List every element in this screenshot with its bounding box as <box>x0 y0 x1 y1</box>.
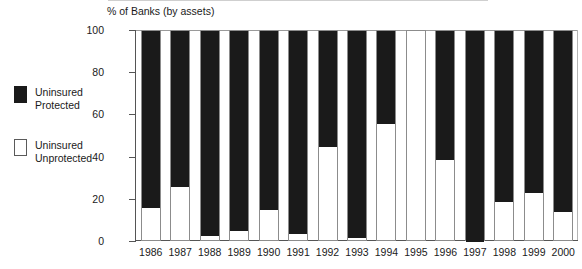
bar-segment-uninsured-protected <box>260 31 278 210</box>
x-axis-tick-label: 1991 <box>286 246 309 258</box>
stacked-bar[interactable] <box>376 30 396 241</box>
x-axis-tick-label: 2000 <box>552 246 575 258</box>
y-axis-tick <box>129 157 136 158</box>
y-axis-tick <box>129 72 136 73</box>
bar-segment-uninsured-protected <box>289 31 307 234</box>
y-axis-title: % of Banks (by assets) <box>107 5 214 17</box>
x-axis-tick-label: 1999 <box>522 246 545 258</box>
bar-slot <box>460 30 489 241</box>
bar-slot <box>224 30 253 241</box>
bar-slot <box>490 30 519 241</box>
x-axis-tick-label: 1987 <box>169 246 192 258</box>
bar-slot <box>549 30 578 241</box>
x-axis-tick-label: 1995 <box>404 246 427 258</box>
y-axis-tick-label: 60 <box>92 108 104 120</box>
bar-slot <box>136 30 165 241</box>
bar-slot <box>283 30 312 241</box>
y-axis-tick <box>129 199 136 200</box>
bar-segment-uninsured-protected <box>230 31 248 231</box>
x-axis-tick-label: 1992 <box>316 246 339 258</box>
y-axis-tick-label: 80 <box>92 66 104 78</box>
legend-label-uninsured-unprotected: Uninsured Unprotected <box>35 139 92 164</box>
chart-page: Uninsured Protected Uninsured Unprotecte… <box>0 0 582 269</box>
y-axis-tick-label: 20 <box>92 193 104 205</box>
bar-slot <box>372 30 401 241</box>
x-axis-tick-label: 1988 <box>198 246 221 258</box>
bar-segment-uninsured-protected <box>495 31 513 202</box>
stacked-bar[interactable] <box>229 30 249 241</box>
bar-group <box>136 30 578 241</box>
x-axis-tick-label: 1994 <box>375 246 398 258</box>
bar-segment-uninsured-protected <box>348 31 366 238</box>
x-axis-tick-label: 1993 <box>345 246 368 258</box>
bar-segment-uninsured-protected <box>554 31 572 212</box>
stacked-bar[interactable] <box>259 30 279 241</box>
bar-segment-uninsured-protected <box>466 31 484 242</box>
x-axis-tick-label: 1997 <box>463 246 486 258</box>
stacked-bar[interactable] <box>288 30 308 241</box>
legend-label-uninsured-protected: Uninsured Protected <box>35 86 83 111</box>
top-divider-rule <box>108 0 488 1</box>
legend-swatch-hollow-icon <box>14 139 27 156</box>
stacked-bar[interactable] <box>141 30 161 241</box>
x-axis-tick-label: 1986 <box>139 246 162 258</box>
stacked-bar[interactable] <box>524 30 544 241</box>
bar-slot <box>401 30 430 241</box>
plot-area: 020406080100 <box>108 30 578 241</box>
y-axis-tick-label: 100 <box>86 24 104 36</box>
bar-segment-uninsured-protected <box>436 31 454 160</box>
legend-swatch-filled-icon <box>14 86 27 103</box>
bar-segment-uninsured-protected <box>525 31 543 193</box>
y-axis-tick <box>129 114 136 115</box>
stacked-bar[interactable] <box>318 30 338 241</box>
bar-slot <box>519 30 548 241</box>
stacked-bar[interactable] <box>494 30 514 241</box>
bar-segment-uninsured-protected <box>377 31 395 124</box>
y-axis-tick <box>129 241 136 242</box>
x-axis-tick-label: 1989 <box>227 246 250 258</box>
bar-segment-uninsured-protected <box>142 31 160 208</box>
bar-segment-uninsured-protected <box>171 31 189 187</box>
bar-slot <box>254 30 283 241</box>
x-axis-labels: 1986198719881989199019911992199319941995… <box>108 246 578 262</box>
stacked-bar[interactable] <box>435 30 455 241</box>
bar-segment-uninsured-protected <box>319 31 337 147</box>
y-axis-tick-label: 40 <box>92 151 104 163</box>
stacked-bar[interactable] <box>200 30 220 241</box>
stacked-bar[interactable] <box>465 30 485 241</box>
stacked-bar[interactable] <box>553 30 573 241</box>
legend-item-uninsured-protected: Uninsured Protected <box>14 86 114 111</box>
bar-slot <box>165 30 194 241</box>
bar-slot <box>313 30 342 241</box>
bar-slot <box>431 30 460 241</box>
x-axis-tick-label: 1998 <box>493 246 516 258</box>
bar-slot <box>342 30 371 241</box>
stacked-bar[interactable] <box>170 30 190 241</box>
bar-segment-uninsured-protected <box>201 31 219 236</box>
chart-legend: Uninsured Protected Uninsured Unprotecte… <box>14 86 114 192</box>
x-axis-tick-label: 1990 <box>257 246 280 258</box>
bar-slot <box>195 30 224 241</box>
x-axis-tick-label: 1996 <box>434 246 457 258</box>
y-axis-tick <box>129 30 136 31</box>
y-axis-tick-label: 0 <box>98 235 104 247</box>
stacked-bar[interactable] <box>347 30 367 241</box>
stacked-bar[interactable] <box>406 30 426 241</box>
